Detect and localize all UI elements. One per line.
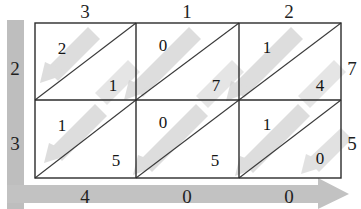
- flow-arrow-r1c1-icon: [133, 104, 208, 175]
- bottom-label-col-3: 0: [284, 187, 294, 206]
- flow-arrow-r0c0-icon: [40, 27, 100, 83]
- flow-arrow-r1c2-icon: [235, 104, 310, 176]
- top-label-col-2: 1: [182, 2, 192, 21]
- cell-r1c1-lower-right: 5: [211, 152, 220, 169]
- right-label-row-1: 7: [347, 59, 357, 78]
- bottom-label-col-1: 4: [80, 187, 90, 206]
- cell-r0c0-upper-left: 2: [58, 40, 67, 57]
- left-label-row-2: 3: [10, 134, 20, 153]
- top-label-col-1: 3: [80, 2, 90, 21]
- figure-canvas: 3 1 2 2 3 7 5 4 0 0 2 1 0 7 1 4 1 5 0 5 …: [0, 0, 361, 209]
- top-label-col-3: 2: [284, 2, 294, 21]
- left-label-row-1: 2: [10, 59, 20, 78]
- cell-r1c2-upper-left: 1: [263, 116, 272, 133]
- cell-r1c2-lower-right: 0: [316, 150, 325, 167]
- cell-r0c1-upper-left: 0: [159, 37, 168, 54]
- horizontal-axis-arrow: [7, 178, 349, 209]
- flow-arrow-r1c2b-icon: [301, 128, 352, 174]
- cell-diagonal-r1c1: [136, 100, 239, 178]
- cell-r0c2-upper-left: 1: [263, 39, 272, 56]
- cell-r0c2-lower-right: 4: [316, 77, 325, 94]
- right-label-row-2: 5: [347, 134, 357, 153]
- cell-r0c1-lower-right: 7: [212, 77, 221, 94]
- tableau-diagram: [0, 0, 361, 209]
- cell-r1c1-upper-left: 0: [159, 114, 168, 131]
- flow-arrow-r1c0-icon: [44, 104, 107, 163]
- bottom-label-col-2: 0: [182, 187, 192, 206]
- cell-r1c0-lower-right: 5: [112, 152, 121, 169]
- vertical-axis-band: [7, 20, 24, 209]
- cell-r1c0-upper-left: 1: [58, 117, 67, 134]
- cell-diagonal-r1c2: [239, 100, 341, 178]
- cell-r0c0-lower-right: 1: [109, 77, 118, 94]
- cell-diagonal-r1c0: [35, 100, 136, 178]
